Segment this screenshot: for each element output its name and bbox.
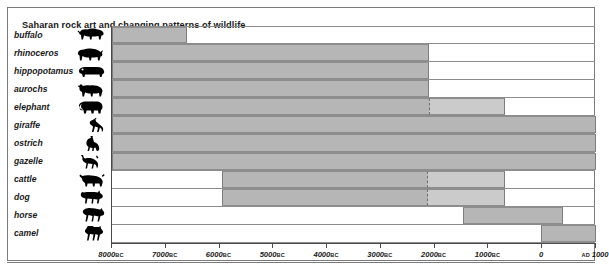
range-bar-ostrich	[112, 134, 596, 151]
chart-row-buffalo	[112, 26, 595, 44]
x-tick-3	[272, 243, 273, 248]
chart-row-camel	[112, 225, 595, 243]
range-bar-fade-elephant	[429, 98, 504, 115]
x-tick-5	[380, 243, 381, 248]
cattle-icon	[74, 171, 108, 189]
ostrich-icon	[74, 135, 108, 153]
x-tick-8	[541, 243, 542, 248]
chart-row-ostrich	[112, 134, 595, 152]
range-bar-camel	[541, 225, 596, 242]
x-tick-0	[111, 243, 112, 248]
x-tick-label-3: 5000BC	[260, 250, 285, 259]
x-tick-label-7: 1000BC	[475, 250, 500, 259]
range-bar-dog	[222, 189, 426, 206]
x-tick-2	[219, 243, 220, 248]
range-bar-gazelle	[112, 153, 596, 170]
range-bar-elephant	[112, 98, 429, 115]
category-label-buffalo: buffalo	[14, 30, 76, 40]
range-bar-hippopotamus	[112, 62, 429, 79]
range-bar-fade-dog	[427, 189, 505, 206]
chart-row-gazelle	[112, 153, 595, 171]
chart-row-elephant	[112, 98, 595, 116]
aurochs-icon	[74, 80, 108, 98]
chart-row-horse	[112, 207, 595, 225]
x-tick-4	[326, 243, 327, 248]
range-bar-buffalo	[112, 27, 187, 43]
category-label-cattle: cattle	[14, 174, 76, 184]
camel-icon	[74, 225, 108, 243]
hippopotamus-icon	[74, 62, 108, 80]
x-tick-label-4: 4000BC	[313, 250, 338, 259]
x-tick-7	[487, 243, 488, 248]
x-tick-label-0: 8000BC	[98, 250, 123, 259]
chart-row-cattle	[112, 171, 595, 189]
category-label-aurochs: aurochs	[14, 84, 76, 94]
x-tick-label-8: 0	[539, 250, 543, 259]
x-tick-label-1: 7000BC	[152, 250, 177, 259]
x-tick-label-9: AD 1000	[581, 250, 608, 259]
x-tick-6	[434, 243, 435, 248]
chart-row-rhinoceros	[112, 44, 595, 62]
range-bar-cattle	[222, 171, 426, 188]
category-label-hippopotamus: hippopotamus	[14, 66, 76, 76]
category-label-dog: dog	[14, 192, 76, 202]
chart-row-aurochs	[112, 80, 595, 98]
x-tick-label-5: 3000BC	[367, 250, 392, 259]
gazelle-icon	[74, 153, 108, 171]
dog-icon	[74, 189, 108, 207]
category-label-giraffe: giraffe	[14, 120, 76, 130]
range-bar-rhinoceros	[112, 44, 429, 61]
range-bar-giraffe	[112, 116, 596, 133]
chart-row-giraffe	[112, 116, 595, 134]
category-label-gazelle: gazelle	[14, 156, 76, 166]
range-bar-aurochs	[112, 80, 429, 97]
category-label-elephant: elephant	[14, 102, 76, 112]
range-bar-horse	[463, 207, 563, 224]
category-label-camel: camel	[14, 228, 76, 238]
buffalo-icon	[74, 26, 108, 44]
x-tick-9	[595, 243, 596, 248]
plot-area	[111, 26, 595, 243]
horse-icon	[74, 207, 108, 225]
category-label-ostrich: ostrich	[14, 138, 76, 148]
elephant-icon	[74, 98, 108, 116]
chart-row-hippopotamus	[112, 62, 595, 80]
x-tick-label-2: 6000BC	[206, 250, 231, 259]
bottom-rule	[7, 262, 595, 263]
x-axis-line	[111, 243, 595, 244]
category-label-rhinoceros: rhinoceros	[14, 48, 76, 58]
chart-row-dog	[112, 189, 595, 207]
giraffe-icon	[74, 116, 108, 134]
rhinoceros-icon	[74, 44, 108, 62]
x-tick-label-6: 2000BC	[421, 250, 446, 259]
x-tick-1	[165, 243, 166, 248]
range-bar-fade-cattle	[427, 171, 505, 188]
category-label-horse: horse	[14, 210, 76, 220]
